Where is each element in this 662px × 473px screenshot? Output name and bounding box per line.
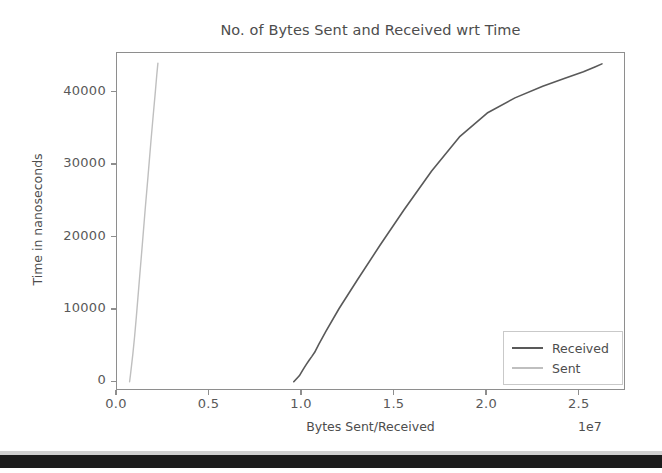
legend-label-sent: Sent (552, 361, 580, 376)
y-tick-mark (111, 236, 116, 237)
chart-legend: Received Sent (503, 331, 623, 385)
y-tick-mark (111, 381, 116, 382)
chart-title: No. of Bytes Sent and Received wrt Time (116, 22, 625, 38)
x-tick-label: 1.0 (271, 396, 331, 411)
series-line-sent (130, 63, 158, 382)
y-tick-mark (111, 91, 116, 92)
legend-label-received: Received (552, 341, 609, 356)
scan-artifact-dark-band (0, 455, 662, 468)
x-tick-mark (485, 390, 486, 395)
y-tick-mark (111, 308, 116, 309)
x-tick-label: 0.5 (179, 396, 239, 411)
x-tick-label: 2.5 (549, 396, 609, 411)
y-tick-mark (111, 163, 116, 164)
y-tick-label: 10000 (34, 300, 106, 315)
x-tick-label: 1.5 (364, 396, 424, 411)
x-tick-label: 0.0 (86, 396, 146, 411)
y-tick-label: 30000 (34, 155, 106, 170)
x-tick-mark (300, 390, 301, 395)
y-tick-label: 20000 (34, 228, 106, 243)
x-tick-mark (578, 390, 579, 395)
x-tick-mark (393, 390, 394, 395)
chart-figure: No. of Bytes Sent and Received wrt Time … (0, 0, 662, 445)
x-tick-mark (208, 390, 209, 395)
x-axis-label: Bytes Sent/Received (116, 419, 625, 434)
x-axis-offset-label: 1e7 (578, 419, 602, 434)
x-tick-label: 2.0 (456, 396, 516, 411)
legend-item-sent: Sent (512, 358, 614, 378)
x-tick-mark (115, 390, 116, 395)
y-axis-label: Time in nanoseconds (30, 120, 45, 320)
y-tick-label: 0 (34, 372, 106, 387)
legend-swatch-sent (512, 367, 543, 369)
y-tick-label: 40000 (34, 83, 106, 98)
legend-item-received: Received (512, 338, 614, 358)
legend-swatch-received (512, 347, 543, 349)
